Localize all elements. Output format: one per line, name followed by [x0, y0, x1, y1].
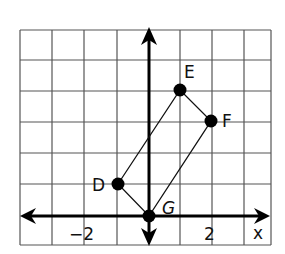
point-f: [205, 115, 218, 128]
label-d: D: [92, 175, 105, 195]
label-f: F: [222, 111, 232, 131]
tick-label-neg2: −2: [69, 224, 94, 244]
point-d: [112, 178, 125, 191]
point-g: [143, 210, 156, 223]
point-e: [174, 84, 187, 97]
tick-label-2: 2: [204, 224, 215, 244]
label-g: G: [162, 198, 175, 218]
label-e: E: [184, 62, 195, 82]
x-axis-label: x: [253, 223, 263, 243]
coordinate-plane: D E F G −2 2 x: [0, 0, 285, 254]
